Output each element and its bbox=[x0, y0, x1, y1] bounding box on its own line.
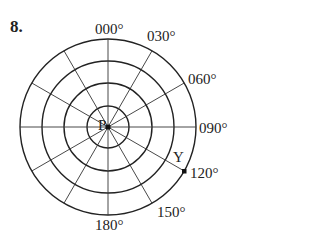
bearing-030-label: 030° bbox=[147, 29, 176, 44]
bearing-090-label: 090° bbox=[199, 121, 228, 136]
bearing-150-label: 150° bbox=[157, 205, 186, 220]
point-label: Y bbox=[173, 150, 184, 165]
bearing-180-label: 180° bbox=[95, 218, 124, 233]
bearing-120-label: 120° bbox=[190, 166, 219, 181]
bearing-060-label: 060° bbox=[188, 72, 217, 87]
point-Y-marker bbox=[182, 169, 187, 174]
center-label: P bbox=[98, 118, 106, 133]
bearing-000-label: 000° bbox=[95, 22, 124, 37]
